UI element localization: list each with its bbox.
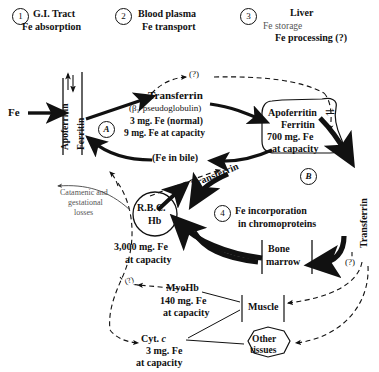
other-tissues-line-2: tissues bbox=[250, 345, 276, 355]
liver-equilibrium-icon: ⇌ bbox=[325, 106, 335, 119]
myohb-label: MyoHb bbox=[166, 283, 199, 294]
stage-3-line-1: Fe storage bbox=[263, 21, 302, 31]
dashed-loop-left-up bbox=[110, 172, 118, 186]
liver-ferritin-label: Ferritin bbox=[281, 120, 315, 131]
stage-1-line-1: Fe absorption bbox=[22, 22, 81, 33]
marker-b: B bbox=[300, 168, 317, 185]
rbc-capacity-value: 3,000 mg. Fe bbox=[114, 242, 168, 253]
stage-2-line-1: Fe transport bbox=[142, 22, 196, 33]
arrow-transferrin-to-liver bbox=[210, 104, 262, 120]
stage-3-line-2: Fe processing (?) bbox=[275, 33, 347, 44]
marker-a: A bbox=[98, 121, 115, 138]
question-label-right: (?) bbox=[344, 258, 356, 268]
cyt-c-italic: c bbox=[162, 333, 166, 344]
arrow-liver-to-bile bbox=[216, 150, 272, 161]
dashed-loop-bottom-to-cytc bbox=[110, 330, 138, 343]
question-label-top: (?) bbox=[188, 70, 200, 80]
stage-4-number: 4 bbox=[214, 205, 231, 222]
myohb-capacity-caption: at capacity bbox=[163, 308, 209, 319]
cyt-c-label: Cyt. c bbox=[141, 334, 166, 345]
transferrin-normal-value: 3 mg. Fe (normal) bbox=[130, 116, 203, 126]
stage-3-title: Liver bbox=[290, 8, 313, 19]
fe-input-label: Fe bbox=[8, 107, 20, 119]
muscle-label: Muscle bbox=[248, 302, 279, 313]
losses-line-3: losses bbox=[74, 209, 93, 218]
cyt-c-capacity-caption: at capacity bbox=[136, 358, 182, 369]
transferrin-edge-label-right: Transferrin bbox=[358, 198, 369, 248]
line-myohb-to-muscle bbox=[202, 292, 240, 302]
arrow-bile-to-gut bbox=[92, 141, 152, 160]
stage-3-number: 3 bbox=[240, 8, 257, 25]
liver-capacity-value: 700 mg. Fe bbox=[267, 132, 313, 143]
losses-line-2: gestational bbox=[68, 199, 103, 208]
stage-2-title: Blood plasma bbox=[138, 9, 196, 20]
arrow-liver-to-right-transferrin bbox=[320, 118, 348, 156]
gut-ferritin-label: Ferritin bbox=[76, 118, 86, 150]
dashed-arc-top-right bbox=[214, 77, 324, 93]
transferrin-subtitle: (β₁-pseudoglobulin) bbox=[129, 104, 201, 114]
iron-metabolism-diagram: 1 G.I. Tract Fe absorption 2 Blood plasm… bbox=[0, 0, 379, 372]
rbc-label-line-1: R.B.C. bbox=[137, 203, 166, 214]
dashed-right-to-muscle bbox=[288, 262, 362, 303]
cyt-c-capacity-value: 3 mg. Fe bbox=[146, 346, 182, 357]
bone-marrow-line-2: marrow bbox=[266, 257, 300, 268]
bone-marrow-line-1: Bone bbox=[268, 244, 290, 255]
other-tissues-line-1: Other bbox=[252, 334, 276, 344]
stage-2-number: 2 bbox=[115, 8, 132, 25]
stage-4-title: Fe incorporation bbox=[235, 206, 307, 217]
losses-line-1: Catamenic and bbox=[60, 189, 108, 198]
transferrin-capacity-value: 9 mg. Fe at capacity bbox=[124, 128, 205, 138]
fe-in-bile-label: (Fe in bile) bbox=[152, 153, 198, 164]
liver-capacity-caption: at capacity bbox=[272, 144, 318, 155]
stage-4-line-1: in chromoproteins bbox=[238, 219, 316, 230]
line-cytc-to-othertissues bbox=[186, 340, 244, 344]
gut-apoferritin-label: Apoferritin bbox=[60, 104, 70, 150]
stage-1-title: G.I. Tract bbox=[33, 9, 75, 20]
rbc-capacity-caption: at capacity bbox=[125, 255, 171, 266]
gut-equilibrium-arrows bbox=[68, 74, 73, 91]
cyt-c-prefix: Cyt. bbox=[141, 333, 162, 344]
myohb-capacity-value: 140 mg. Fe bbox=[160, 296, 206, 307]
dashed-right-to-othertissues bbox=[296, 266, 368, 343]
rbc-label-line-2: Hb bbox=[148, 216, 161, 227]
arrow-right-to-bonemarrow bbox=[318, 236, 344, 264]
transferrin-title: Transferrin bbox=[148, 90, 203, 102]
liver-apoferritin-label: Apoferritin bbox=[268, 108, 317, 119]
